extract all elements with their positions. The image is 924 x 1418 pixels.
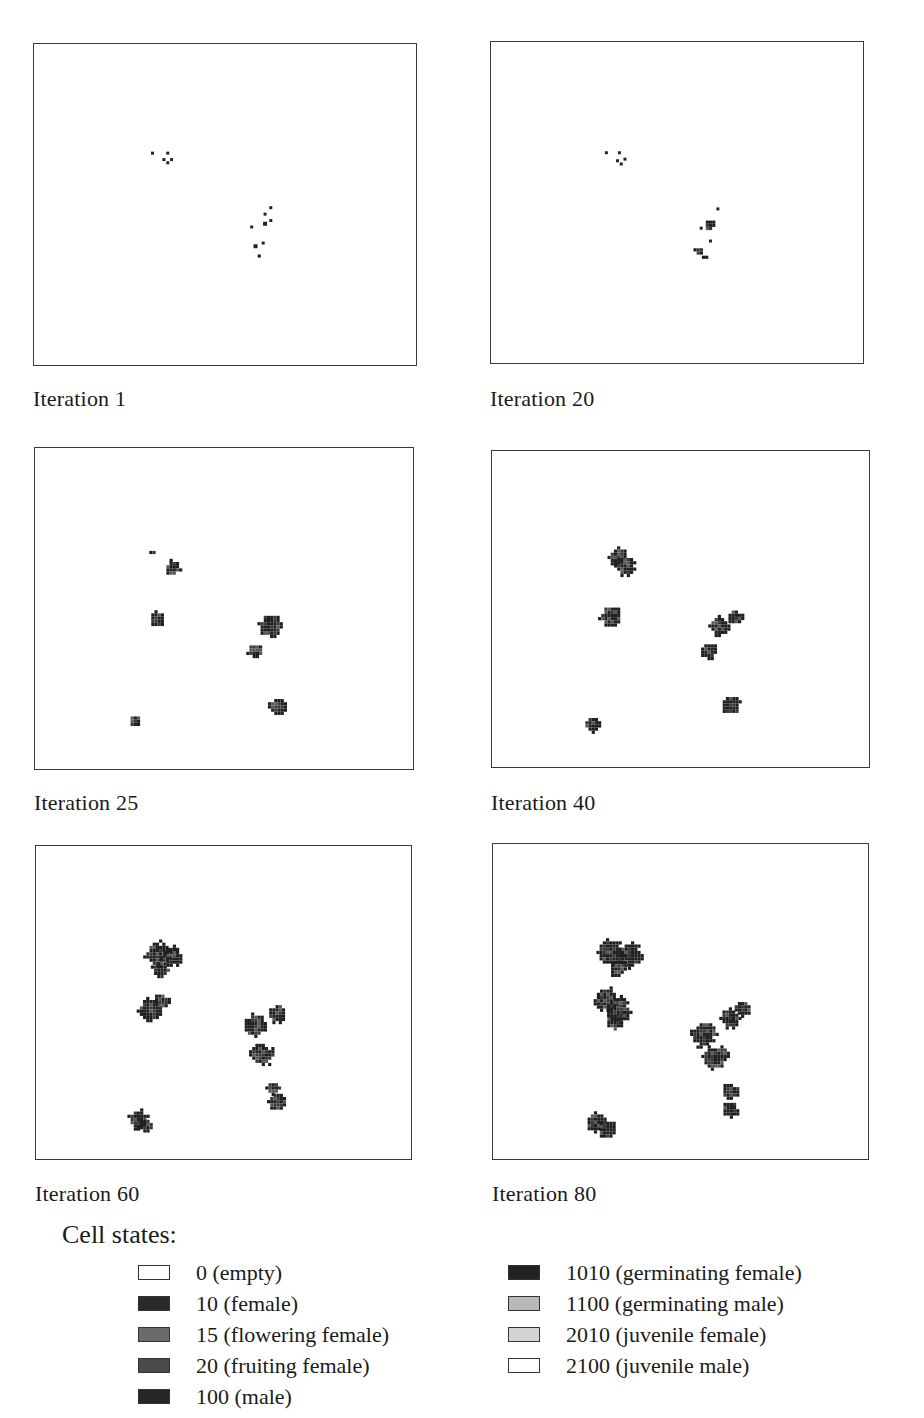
legend-item: 20 (fruiting female) <box>138 1350 389 1381</box>
cell-grid <box>34 44 416 365</box>
panel-caption: Iteration 60 <box>35 1181 139 1207</box>
panel-caption: Iteration 80 <box>492 1181 596 1207</box>
legend-label: 15 (flowering female) <box>196 1322 389 1348</box>
legend-label: 10 (female) <box>196 1291 298 1317</box>
panel-caption: Iteration 20 <box>490 386 594 412</box>
legend-item: 10 (female) <box>138 1288 389 1319</box>
legend-label: 20 (fruiting female) <box>196 1353 370 1379</box>
panel-caption: Iteration 25 <box>34 790 138 816</box>
legend-swatch-icon <box>508 1296 540 1311</box>
legend-item: 2010 (juvenile female) <box>508 1319 802 1350</box>
legend-swatch-icon <box>138 1265 170 1280</box>
legend-item: 1100 (germinating male) <box>508 1288 802 1319</box>
cell-grid <box>491 42 863 363</box>
grid-panel-p3 <box>34 447 414 770</box>
panel-caption: Iteration 1 <box>33 386 126 412</box>
legend-label: 2100 (juvenile male) <box>566 1353 749 1379</box>
legend-swatch-icon <box>138 1389 170 1404</box>
grid-panel-p4 <box>491 450 870 768</box>
grid-panel-p2 <box>490 41 864 364</box>
legend-left-column: 0 (empty)10 (female)15 (flowering female… <box>138 1257 389 1412</box>
cell-grid <box>36 846 411 1159</box>
legend-label: 1010 (germinating female) <box>566 1260 802 1286</box>
panel-caption: Iteration 40 <box>491 790 595 816</box>
grid-panel-p5 <box>35 845 412 1160</box>
legend-swatch-icon <box>508 1265 540 1280</box>
legend-item: 100 (male) <box>138 1381 389 1412</box>
legend-label: 1100 (germinating male) <box>566 1291 784 1317</box>
legend-item: 15 (flowering female) <box>138 1319 389 1350</box>
legend-label: 0 (empty) <box>196 1260 282 1286</box>
legend-item: 0 (empty) <box>138 1257 389 1288</box>
legend-swatch-icon <box>138 1327 170 1342</box>
legend-swatch-icon <box>138 1358 170 1373</box>
legend-label: 2010 (juvenile female) <box>566 1322 766 1348</box>
legend-swatch-icon <box>508 1327 540 1342</box>
grid-panel-p1 <box>33 43 417 366</box>
grid-panel-p6 <box>492 843 869 1160</box>
legend-item: 2100 (juvenile male) <box>508 1350 802 1381</box>
cell-grid <box>492 451 869 767</box>
legend-label: 100 (male) <box>196 1384 292 1410</box>
legend-right-column: 1010 (germinating female)1100 (germinati… <box>508 1257 802 1381</box>
legend-swatch-icon <box>508 1358 540 1373</box>
legend-item: 1010 (germinating female) <box>508 1257 802 1288</box>
legend-swatch-icon <box>138 1296 170 1311</box>
legend-title: Cell states: <box>62 1220 177 1250</box>
cell-grid <box>35 448 413 769</box>
cell-grid <box>493 844 868 1159</box>
